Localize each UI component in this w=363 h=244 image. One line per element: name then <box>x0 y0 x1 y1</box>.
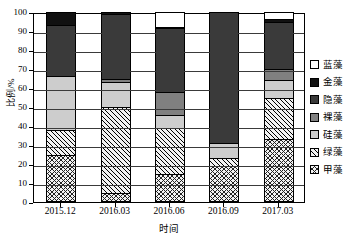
legend-item-label: 硅藻 <box>323 130 343 140</box>
legend-item-label: 甲藻 <box>323 165 343 175</box>
legend-swatch-icon <box>310 95 319 104</box>
stacked-bar-chart: 比例/% 0102030405060708090100 2015.122016.… <box>0 0 363 244</box>
y-tick-mark <box>29 89 33 90</box>
gridline <box>34 52 304 53</box>
legend-item-label: 金藻 <box>323 77 343 87</box>
bar-segment-金藻[interactable] <box>264 19 294 22</box>
gridline <box>34 109 304 110</box>
gridline <box>34 90 304 91</box>
bar-segment-裸藻[interactable] <box>155 92 185 115</box>
bar-segment-金藻[interactable] <box>101 12 131 14</box>
bar-segment-裸藻[interactable] <box>101 79 131 83</box>
legend-swatch-icon <box>310 130 319 139</box>
bar-segment-甲藻[interactable] <box>155 174 185 202</box>
y-tick-label: 100 <box>0 8 27 17</box>
bar-segment-隐藻[interactable] <box>101 14 131 79</box>
legend-item-label: 隐藻 <box>323 95 343 105</box>
bar-segment-硅藻[interactable] <box>46 76 76 130</box>
gridline <box>34 147 304 148</box>
bar-segment-绿藻[interactable] <box>155 128 185 175</box>
legend-item-label: 蓝藻 <box>323 60 343 70</box>
legend-item-蓝藻[interactable]: 蓝藻 <box>310 56 362 74</box>
y-tick-mark <box>29 184 33 185</box>
gridline <box>34 166 304 167</box>
bar-segment-甲藻[interactable] <box>46 155 76 202</box>
y-tick-mark <box>29 51 33 52</box>
bar-segment-硅藻[interactable] <box>155 115 185 128</box>
y-tick-label: 10 <box>0 179 27 188</box>
bar-segment-金藻[interactable] <box>155 27 185 28</box>
bar-segment-硅藻[interactable] <box>209 143 239 158</box>
y-tick-mark <box>29 32 33 33</box>
x-tick-label: 2017.03 <box>243 206 313 217</box>
bar-segment-绿藻[interactable] <box>46 130 76 156</box>
y-tick-label: 80 <box>0 46 27 55</box>
y-tick-mark <box>29 70 33 71</box>
bar-segment-隐藻[interactable] <box>155 28 185 92</box>
bar-segment-金藻[interactable] <box>46 12 76 25</box>
y-tick-mark <box>29 127 33 128</box>
legend-item-甲藻[interactable]: 甲藻 <box>310 161 362 179</box>
y-tick-label: 30 <box>0 141 27 150</box>
bar-segment-绿藻[interactable] <box>264 98 294 140</box>
bar-segment-甲藻[interactable] <box>264 139 294 202</box>
y-tick-label: 70 <box>0 65 27 74</box>
legend-item-裸藻[interactable]: 裸藻 <box>310 109 362 127</box>
gridline <box>34 71 304 72</box>
gridline <box>34 128 304 129</box>
legend-item-label: 绿藻 <box>323 147 343 157</box>
legend-item-绿藻[interactable]: 绿藻 <box>310 144 362 162</box>
y-tick-label: 0 <box>0 198 27 207</box>
legend-swatch-icon <box>310 60 319 69</box>
legend-swatch-icon <box>310 113 319 122</box>
legend-item-硅藻[interactable]: 硅藻 <box>310 126 362 144</box>
y-tick-label: 40 <box>0 122 27 131</box>
y-tick-mark <box>29 13 33 14</box>
legend-swatch-icon <box>310 78 319 87</box>
legend-item-隐藻[interactable]: 隐藻 <box>310 91 362 109</box>
legend-item-金藻[interactable]: 金藻 <box>310 74 362 92</box>
gridline <box>34 185 304 186</box>
legend-swatch-icon <box>310 165 319 174</box>
y-tick-label: 50 <box>0 103 27 112</box>
y-tick-label: 60 <box>0 84 27 93</box>
bar-segment-绿藻[interactable] <box>101 107 131 193</box>
y-tick-label: 20 <box>0 160 27 169</box>
y-tick-mark <box>29 165 33 166</box>
gridline <box>34 33 304 34</box>
legend-item-label: 裸藻 <box>323 112 343 122</box>
plot-area <box>33 13 305 203</box>
y-tick-mark <box>29 108 33 109</box>
bar-segment-隐藻[interactable] <box>264 22 294 70</box>
y-tick-mark <box>29 146 33 147</box>
x-axis-title: 时间 <box>33 221 305 235</box>
legend: 蓝藻金藻隐藻裸藻硅藻绿藻甲藻 <box>310 56 362 179</box>
y-tick-mark <box>29 203 33 204</box>
bar-segment-甲藻[interactable] <box>101 193 131 203</box>
bar-segment-蓝藻[interactable] <box>264 12 294 19</box>
y-tick-label: 90 <box>0 27 27 36</box>
bar-segment-硅藻[interactable] <box>101 82 131 107</box>
bar-segment-蓝藻[interactable] <box>155 12 185 27</box>
legend-swatch-icon <box>310 148 319 157</box>
